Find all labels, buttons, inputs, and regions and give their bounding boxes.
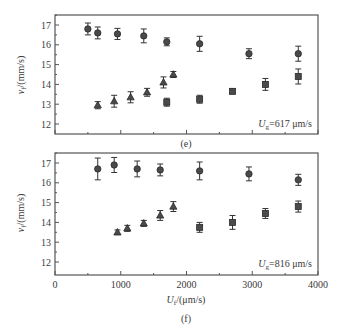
x-axis-label-unit: /(μm/s) [176, 294, 205, 306]
circle-marker [114, 31, 120, 37]
triangle-marker [160, 79, 167, 85]
panel-label: (f) [181, 313, 191, 325]
y-tick-label: 13 [41, 237, 51, 248]
square-marker [164, 99, 170, 105]
annotation: Ug=816 μm/s [258, 258, 312, 271]
square-marker [197, 96, 203, 102]
data-point-circle [141, 29, 147, 43]
circle-marker [95, 166, 101, 172]
circle-marker [295, 177, 301, 183]
data-point-triangle [170, 202, 177, 212]
data-point-circle [95, 27, 101, 39]
data-point-square [197, 95, 203, 103]
circle-marker [246, 171, 252, 177]
square-marker [230, 88, 236, 94]
data-point-triangle [127, 92, 134, 103]
panel-label: (e) [180, 138, 191, 150]
data-point-circle [295, 174, 301, 185]
annotation-value: =816 μm/s [269, 258, 312, 269]
x-tick-label: 2000 [177, 279, 197, 290]
x-tick-label: 1000 [111, 279, 131, 290]
y-ticks: 121314151617 [41, 15, 59, 129]
circle-marker [134, 166, 140, 172]
data-point-triangle [114, 229, 121, 235]
x-tick-label: 4000 [308, 279, 328, 290]
data-point-circle [164, 38, 170, 46]
panel-f: vf/(mm/s) 121314151617 01000200030004000… [15, 153, 328, 325]
data-point-circle [295, 46, 301, 61]
y-axis-label: vf/(mm/s) [15, 56, 28, 94]
x-ticks [55, 130, 318, 134]
x-tick-label: 3000 [242, 279, 262, 290]
panel-e: vf/(mm/s) 121314151617 Ug=617 μm/s (e) [15, 15, 318, 150]
data-point-square [230, 215, 236, 229]
triangle-marker [94, 101, 101, 107]
y-axis-label-unit: /(mm/s) [15, 56, 27, 88]
data-point-square [230, 88, 236, 94]
data-point-square [262, 78, 268, 90]
triangle-marker [127, 93, 134, 99]
square-marker [295, 204, 301, 210]
y-tick-label: 16 [41, 177, 51, 188]
data-point-triangle [94, 101, 101, 108]
y-tick-label: 17 [41, 158, 51, 169]
data-point-circle [196, 162, 202, 180]
triangle-marker [170, 203, 177, 209]
y-tick-label: 15 [41, 59, 51, 70]
data-point-square [262, 209, 268, 219]
triangle-marker [157, 212, 164, 218]
square-marker [262, 81, 268, 87]
circle-marker [196, 168, 202, 174]
y-tick-label: 12 [41, 257, 51, 268]
circle-marker [141, 33, 147, 39]
y-ticks: 121314151617 [41, 153, 59, 267]
y-tick-label: 15 [41, 197, 51, 208]
data-point-triangle [160, 77, 167, 88]
triangle-marker [143, 89, 150, 95]
y-tick-label: 13 [41, 99, 51, 110]
data-point-circle [85, 23, 91, 35]
data-point-square [295, 201, 301, 212]
data-point-square [295, 69, 301, 84]
circle-marker [111, 162, 117, 168]
circle-marker [246, 51, 252, 57]
circle-marker [164, 39, 170, 45]
circle-marker [85, 26, 91, 32]
data-point-triangle [111, 95, 118, 107]
data-point-circle [157, 164, 163, 176]
triangle-marker [111, 97, 118, 103]
circle-marker [95, 30, 101, 36]
data-point-circle [246, 167, 252, 181]
annotation-value: =617 μm/s [269, 118, 312, 129]
plot-frame [55, 153, 318, 275]
data-marks [95, 157, 302, 234]
data-point-triangle [140, 220, 147, 227]
figure: vf/(mm/s) 121314151617 Ug=617 μm/s (e) v… [0, 0, 343, 332]
data-point-circle [134, 161, 140, 177]
data-point-circle [95, 158, 101, 180]
y-tick-label: 12 [41, 119, 51, 130]
data-point-circle [246, 49, 252, 59]
data-point-triangle [124, 225, 131, 232]
data-point-circle [196, 36, 202, 51]
data-point-circle [114, 28, 120, 39]
data-point-square [197, 222, 203, 232]
square-marker [262, 210, 268, 216]
data-point-square [164, 98, 170, 106]
data-point-triangle [143, 88, 150, 96]
x-axis-label: Uf/(μm/s) [167, 294, 206, 307]
circle-marker [196, 41, 202, 47]
y-tick-label: 14 [41, 79, 51, 90]
square-marker [197, 224, 203, 230]
x-tick-label: 0 [53, 279, 58, 290]
data-point-triangle [157, 211, 164, 221]
data-marks [85, 23, 302, 109]
circle-marker [295, 51, 301, 57]
square-marker [230, 219, 236, 225]
square-marker [295, 73, 301, 79]
x-ticks: 01000200030004000 [53, 271, 329, 290]
data-point-triangle [170, 71, 177, 78]
y-tick-label: 17 [41, 20, 51, 31]
data-point-circle [111, 157, 117, 172]
y-axis-label: vf/(mm/s) [15, 194, 28, 232]
